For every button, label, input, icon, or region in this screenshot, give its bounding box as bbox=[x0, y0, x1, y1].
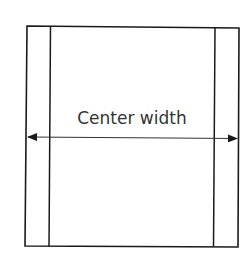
outer-box bbox=[25, 26, 239, 247]
center-width-diagram bbox=[0, 0, 250, 259]
width-arrow bbox=[28, 137, 237, 139]
center-width-label: Center width bbox=[66, 108, 198, 128]
inner-right-line bbox=[214, 28, 216, 247]
